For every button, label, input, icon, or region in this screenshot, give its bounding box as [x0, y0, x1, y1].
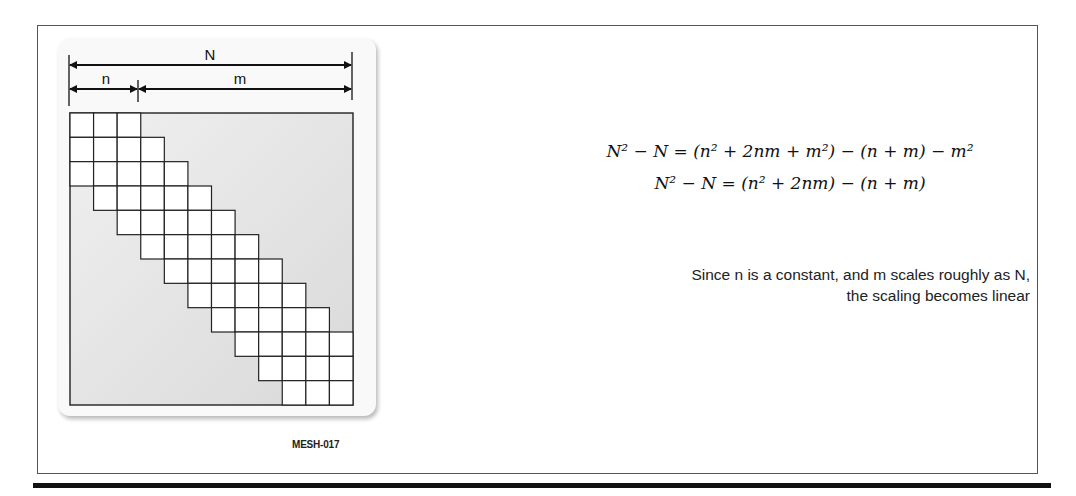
matrix-cell-nonzero: [94, 186, 118, 210]
matrix-cell-nonzero: [70, 113, 94, 137]
dimension-annotations: N n m: [69, 46, 352, 106]
note-line-1: Since n is a constant, and m scales roug…: [540, 264, 1030, 285]
matrix-cell-nonzero: [235, 259, 259, 283]
matrix-cell-nonzero: [306, 381, 330, 405]
matrix-cell-nonzero: [282, 356, 306, 380]
matrix-cell-nonzero: [164, 235, 188, 259]
matrix-cell-nonzero: [117, 162, 141, 186]
matrix-cell-nonzero: [259, 356, 283, 380]
matrix-cell-nonzero: [282, 381, 306, 405]
matrix-cell-nonzero: [117, 186, 141, 210]
banded-matrix-diagram: N n m: [0, 0, 1076, 496]
equation-2: N² − N = (n² + 2nm) − (n + m): [540, 168, 1040, 200]
explanation-note: Since n is a constant, and m scales roug…: [540, 264, 1030, 306]
matrix-cell-nonzero: [141, 162, 165, 186]
matrix-cell-nonzero: [212, 283, 236, 307]
matrix-cell-nonzero: [94, 137, 118, 161]
matrix-cell-nonzero: [188, 186, 212, 210]
matrix-cell-nonzero: [212, 259, 236, 283]
matrix-cell-nonzero: [235, 332, 259, 356]
matrix-cell-nonzero: [164, 162, 188, 186]
equation-1-lhs: N² − N: [606, 141, 668, 161]
dim-label-m: m: [234, 70, 247, 87]
matrix-cell-nonzero: [70, 162, 94, 186]
matrix-cell-nonzero: [141, 137, 165, 161]
equation-1-rhs: (n² + 2nm + m²) − (n + m) − m²: [693, 141, 973, 161]
matrix-cell-nonzero: [259, 308, 283, 332]
equals-sign: =: [673, 141, 693, 161]
matrix-cell-nonzero: [164, 210, 188, 234]
figure-id-label: MESH-017: [292, 439, 339, 450]
matrix-cell-nonzero: [235, 235, 259, 259]
note-line-2: the scaling becomes linear: [540, 285, 1030, 306]
matrix-grid: [70, 113, 353, 405]
equation-2-lhs: N² − N: [654, 173, 716, 193]
equations-block: N² − N = (n² + 2nm + m²) − (n + m) − m² …: [540, 136, 1040, 200]
dim-label-N: N: [205, 46, 216, 63]
matrix-cell-nonzero: [117, 113, 141, 137]
matrix-cell-nonzero: [306, 308, 330, 332]
matrix-cell-nonzero: [141, 186, 165, 210]
matrix-cell-nonzero: [94, 113, 118, 137]
matrix-cell-nonzero: [188, 283, 212, 307]
matrix-cell-nonzero: [141, 235, 165, 259]
matrix-cell-nonzero: [259, 332, 283, 356]
matrix-cell-nonzero: [235, 308, 259, 332]
matrix-cell-nonzero: [329, 356, 353, 380]
matrix-cell-nonzero: [329, 381, 353, 405]
matrix-cell-nonzero: [282, 308, 306, 332]
equation-1: N² − N = (n² + 2nm + m²) − (n + m) − m²: [540, 136, 1040, 168]
dim-label-n: n: [102, 70, 110, 87]
equals-sign: =: [721, 173, 741, 193]
matrix-cell-nonzero: [212, 235, 236, 259]
matrix-cell-nonzero: [188, 210, 212, 234]
matrix-cell-nonzero: [282, 283, 306, 307]
matrix-cell-nonzero: [141, 210, 165, 234]
matrix-cell-nonzero: [212, 210, 236, 234]
matrix-cell-nonzero: [306, 356, 330, 380]
matrix-cell-nonzero: [117, 210, 141, 234]
matrix-cell-nonzero: [282, 332, 306, 356]
matrix-cell-nonzero: [212, 308, 236, 332]
matrix-cell-nonzero: [94, 162, 118, 186]
equation-2-rhs: (n² + 2nm) − (n + m): [741, 173, 925, 193]
matrix-cell-nonzero: [235, 283, 259, 307]
matrix-cell-nonzero: [117, 137, 141, 161]
matrix-cell-nonzero: [329, 332, 353, 356]
matrix-cell-nonzero: [164, 186, 188, 210]
matrix-cell-nonzero: [188, 235, 212, 259]
matrix-cell-nonzero: [70, 137, 94, 161]
matrix-cell-nonzero: [164, 259, 188, 283]
matrix-cell-nonzero: [259, 259, 283, 283]
matrix-cell-nonzero: [306, 332, 330, 356]
matrix-cell-nonzero: [188, 259, 212, 283]
matrix-cell-nonzero: [259, 283, 283, 307]
